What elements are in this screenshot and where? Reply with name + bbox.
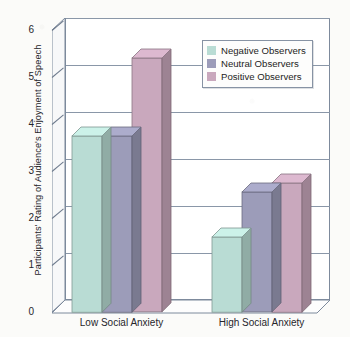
legend: Negative ObserversNeutral ObserversPosit…	[202, 40, 313, 88]
legend-label: Neutral Observers	[221, 58, 299, 69]
y-tick-label: 2	[20, 213, 34, 223]
y-tick-label: 6	[20, 25, 34, 35]
bar[interactable]	[212, 228, 242, 312]
legend-item[interactable]: Neutral Observers	[207, 57, 306, 70]
legend-label: Negative Observers	[221, 45, 306, 56]
bar-3d-shape	[212, 228, 251, 312]
y-tick-label: 3	[20, 166, 34, 176]
y-axis-tick-labels: 6543210	[18, 0, 34, 337]
chart-figure: Participants' Rating of Audience's Enjoy…	[0, 0, 350, 337]
y-tick-label: 1	[20, 260, 34, 270]
x-category-label: High Social Anxiety	[202, 317, 322, 328]
legend-label: Positive Observers	[221, 71, 302, 82]
bar[interactable]	[72, 127, 102, 312]
gridline	[66, 18, 330, 19]
legend-swatch	[207, 59, 216, 68]
legend-swatch	[207, 46, 216, 55]
y-axis-title: Participants' Rating of Audience's Enjoy…	[33, 25, 43, 295]
bar-3d-shape	[72, 127, 111, 312]
legend-item[interactable]: Positive Observers	[207, 70, 306, 83]
y-tick-label: 0	[20, 307, 34, 317]
legend-item[interactable]: Negative Observers	[207, 44, 306, 57]
x-category-label: Low Social Anxiety	[62, 317, 182, 328]
y-tick-label: 4	[20, 119, 34, 129]
gridline	[66, 112, 330, 113]
y-tick-label: 5	[20, 72, 34, 82]
legend-swatch	[207, 72, 216, 81]
